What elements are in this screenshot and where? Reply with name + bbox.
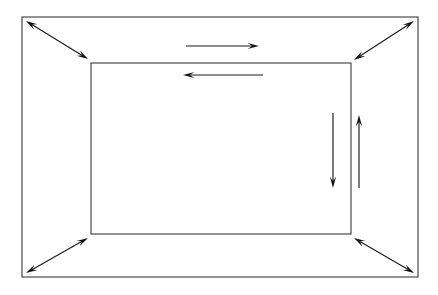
figure-root [0, 0, 438, 295]
corner-arrow-top-right [354, 21, 414, 60]
corner-arrow-bottom-right [354, 238, 414, 273]
flow-arrow-top-right [186, 43, 259, 49]
flow-arrow-top-left [183, 72, 263, 78]
figure-canvas [0, 0, 438, 295]
corner-arrow-top-left [26, 21, 88, 59]
flow-arrow-right-up [356, 115, 362, 188]
corner-arrow-bottom-left [26, 238, 88, 273]
inner-rectangle [91, 63, 351, 234]
flow-arrow-right-down [330, 113, 336, 188]
